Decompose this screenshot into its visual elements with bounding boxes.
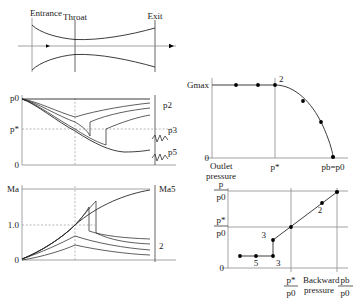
exit-label: Exit bbox=[148, 11, 163, 21]
flow-arrow-exit-icon bbox=[169, 44, 174, 48]
nozzle-flow-figure: Entrance Throat Exit p0 p* 0 p2 p3 p5 bbox=[0, 0, 361, 305]
outlet-x-num-pb: pb bbox=[341, 275, 351, 285]
outlet-point-pb bbox=[335, 190, 339, 194]
massflow-point-label-2: 2 bbox=[279, 74, 284, 84]
massflow-curve bbox=[212, 85, 333, 156]
massflow-point bbox=[319, 120, 323, 124]
pressure-distribution-panel: p0 p* 0 p2 p3 p5 bbox=[10, 93, 178, 170]
outlet-x-den-p0-2: p0 bbox=[341, 288, 351, 298]
massflow-point bbox=[234, 83, 238, 87]
nozzle-lower-wall bbox=[32, 54, 155, 70]
nozzle-upper-wall bbox=[32, 25, 155, 40]
outlet-x-num-pstar: p* bbox=[287, 275, 297, 285]
pressure-y-label-p0: p0 bbox=[10, 93, 20, 103]
outlet-y-num-p: p bbox=[219, 179, 224, 189]
outlet-pressure-panel: 3 3 5 2 p p0 p* p0 0 p* p0 Backward pres… bbox=[214, 179, 353, 298]
pressure-curve-label-p5: p5 bbox=[168, 147, 178, 157]
massflow-point bbox=[301, 99, 305, 103]
outlet-point-3-low bbox=[271, 254, 275, 258]
flow-arrow-icon bbox=[46, 44, 50, 48]
massflow-point-zero bbox=[331, 155, 335, 159]
outlet-curve-overexpanded bbox=[240, 240, 273, 256]
outlet-point bbox=[238, 254, 242, 258]
throat-label: Throat bbox=[63, 12, 87, 22]
mach-y-label-one: 1.0 bbox=[8, 220, 20, 230]
massflow-y-label-zero: 0 bbox=[205, 153, 210, 163]
mach-curve-label-2: 2 bbox=[159, 241, 164, 251]
nozzle-geometry-panel: Entrance Throat Exit bbox=[18, 8, 176, 72]
pressure-curve-p2 bbox=[22, 99, 150, 117]
outlet-y-den-p0-2: p0 bbox=[217, 228, 227, 238]
shock-zigzag-icon-p5 bbox=[152, 154, 168, 161]
mach-distribution-panel: Ma 1.0 0 Ma5 2 bbox=[7, 184, 176, 265]
massflow-point bbox=[256, 83, 260, 87]
shock-zigzag-icon-p3 bbox=[152, 135, 168, 142]
pressure-curve-label-p2: p2 bbox=[163, 100, 172, 110]
outlet-y-den-p0: p0 bbox=[217, 192, 227, 202]
outlet-x-label-backward: Backward bbox=[303, 275, 340, 285]
outlet-y-label-zero: 0 bbox=[220, 263, 225, 273]
pressure-curve-label-p3: p3 bbox=[168, 125, 178, 135]
mach-curve-label-ma5: Ma5 bbox=[159, 184, 176, 194]
entrance-label: Entrance bbox=[30, 8, 62, 18]
massflow-x-label-pstar: p* bbox=[271, 162, 281, 172]
pressure-curve-p5 bbox=[22, 99, 150, 152]
outlet-point-label-3-high: 3 bbox=[262, 230, 267, 240]
outlet-point-label-2: 2 bbox=[318, 205, 323, 215]
mach-curve-ma5 bbox=[22, 190, 150, 259]
mach-curve-shock-b bbox=[22, 201, 150, 259]
outlet-y-num-pstar: p* bbox=[217, 215, 227, 225]
massflow-panel: Gmax 0 2 Outlet pressure p* pb=p0 bbox=[187, 74, 348, 181]
mach-y-label-zero: 0 bbox=[15, 255, 20, 265]
pressure-y-label-zero: 0 bbox=[15, 160, 20, 170]
mach-curve-2 bbox=[22, 245, 150, 260]
outlet-curve-diagonal bbox=[273, 192, 337, 240]
massflow-point-2 bbox=[273, 83, 277, 87]
massflow-x-label-outlet: Outlet bbox=[210, 161, 233, 171]
outlet-point-pstar bbox=[289, 225, 293, 229]
outlet-x-label-pressure: pressure bbox=[304, 285, 334, 295]
outlet-point-label-3-low: 3 bbox=[276, 258, 281, 268]
outlet-point-label-5: 5 bbox=[254, 258, 259, 268]
mach-curve-shock-a bbox=[22, 207, 150, 259]
massflow-x-label-pbp0: pb=p0 bbox=[321, 162, 345, 172]
pressure-y-label-pstar: p* bbox=[10, 124, 20, 134]
outlet-x-den-p0: p0 bbox=[287, 288, 297, 298]
mach-y-label-ma: Ma bbox=[7, 184, 19, 194]
outlet-point-3-high bbox=[271, 238, 275, 242]
massflow-y-label-gmax: Gmax bbox=[187, 80, 209, 90]
